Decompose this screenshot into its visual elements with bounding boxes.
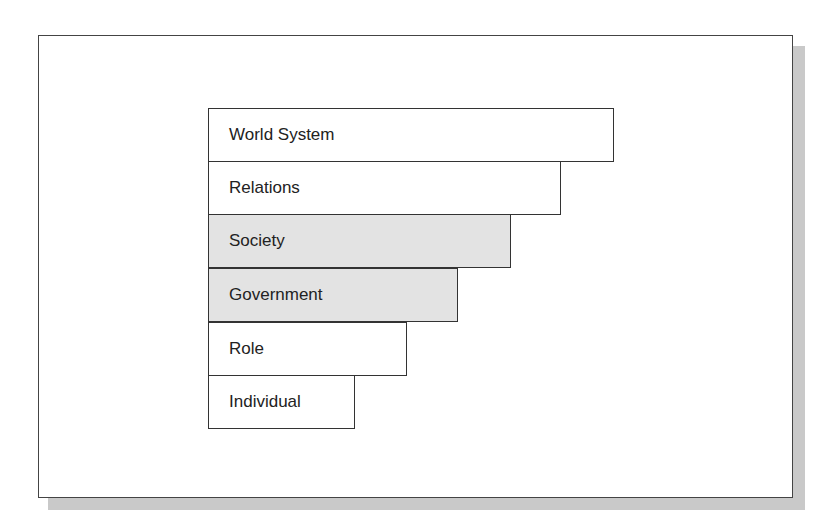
level-world-system: World System [208, 108, 614, 162]
level-label: Individual [229, 392, 301, 412]
level-government: Government [208, 268, 458, 322]
level-individual: Individual [208, 375, 355, 429]
level-label: Government [229, 285, 323, 305]
level-society: Society [208, 214, 511, 268]
level-label: Society [229, 231, 285, 251]
level-label: Role [229, 339, 264, 359]
level-relations: Relations [208, 161, 561, 215]
level-role: Role [208, 322, 407, 376]
level-label: Relations [229, 178, 300, 198]
level-label: World System [229, 125, 335, 145]
